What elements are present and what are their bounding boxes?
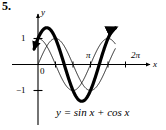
x-tick-label-two-pi: 2π bbox=[131, 50, 140, 60]
y-axis-label: y bbox=[41, 7, 45, 17]
problem-number-label: 5. bbox=[2, 0, 11, 13]
origin-label: 0 bbox=[40, 66, 45, 76]
x-axis-label: x bbox=[153, 59, 157, 69]
x-tick-label-pi: π bbox=[86, 50, 91, 60]
y-tick-label-one: 1 bbox=[21, 33, 26, 43]
equation-caption: y = sin x + cos x bbox=[56, 105, 130, 119]
graph-figure: 5. y bbox=[0, 0, 166, 130]
y-tick-label-negative-one: −1 bbox=[16, 85, 26, 95]
